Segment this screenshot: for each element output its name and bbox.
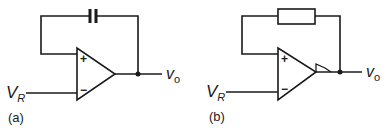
feedback-wire-b — [242, 16, 278, 54]
panel-b-circuit — [0, 0, 389, 136]
output-label-b: vo — [366, 64, 380, 83]
output-label-b-main: v — [366, 63, 374, 80]
plus-sign-b: + — [281, 53, 288, 65]
output-node-b — [338, 70, 343, 75]
input-label-b-main: V — [206, 82, 217, 101]
output-label-b-sub: o — [374, 71, 380, 83]
feedback-wire-b-right — [315, 16, 340, 72]
panel-tag-b: (b) — [209, 110, 225, 123]
hysteresis-icon — [316, 64, 331, 72]
input-label-b-sub: R — [217, 91, 225, 103]
resistor — [278, 9, 315, 24]
minus-sign-b: − — [281, 83, 288, 95]
input-label-b: VR — [206, 83, 225, 103]
